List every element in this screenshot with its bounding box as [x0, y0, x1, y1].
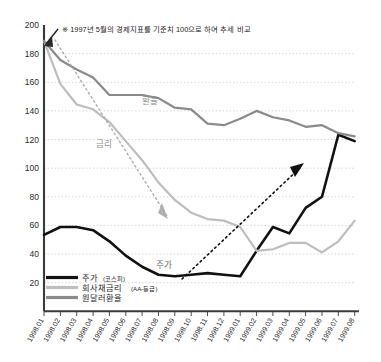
interest-rate-label: 금리 — [96, 139, 112, 149]
series-line-exchange-rate — [44, 41, 355, 136]
y-tick: 120 — [25, 135, 39, 145]
note-pointer — [44, 29, 58, 47]
legend-label-exchange-rate: 원달러환율 — [82, 293, 122, 303]
y-tick: 200 — [25, 20, 39, 30]
exchange-rate-label: 환율 — [142, 95, 158, 106]
legend-sublabel-stock-price: (코스피) — [103, 275, 125, 283]
legend-label-stock-price: 주가 — [82, 274, 98, 283]
series-lines — [44, 41, 355, 276]
y-tick: 80 — [30, 192, 40, 202]
gridlines — [44, 54, 355, 283]
legend-label-bond-rate: 회사채금리 — [82, 283, 122, 293]
chart-note: ※ 1997년 5월의 경제지표를 기준치 100으로 하여 추세 비교 — [62, 25, 251, 34]
chart-canvas: 200 180 160 140 120 100 80 60 40 20 1998… — [0, 0, 381, 362]
y-tick: 40 — [30, 249, 40, 259]
y-tick: 160 — [25, 77, 39, 87]
legend-sublabel-bond-rate: (AA-등급) — [131, 285, 157, 292]
x-axis-labels: 1998.011998.021998.031998.041998.051998.… — [25, 317, 356, 344]
y-tick: 100 — [25, 163, 39, 173]
chart-legend: 주가 (코스피) 회사채금리 (AA-등급) 원달러환율 — [46, 274, 157, 303]
y-tick: 20 — [30, 278, 40, 288]
chart-axes — [44, 25, 359, 316]
y-tick: 60 — [30, 220, 40, 230]
stock-price-label: 주가 — [156, 260, 172, 270]
series-line-bond-rate — [44, 41, 355, 253]
y-tick: 140 — [25, 106, 39, 116]
y-tick: 180 — [25, 49, 39, 59]
series-line-stock-price — [44, 135, 355, 277]
economic-indicator-chart: 200 180 160 140 120 100 80 60 40 20 1998… — [0, 0, 381, 362]
stock-price-up-arrow — [182, 163, 304, 279]
y-axis-labels: 200 180 160 140 120 100 80 60 40 20 — [25, 20, 39, 288]
